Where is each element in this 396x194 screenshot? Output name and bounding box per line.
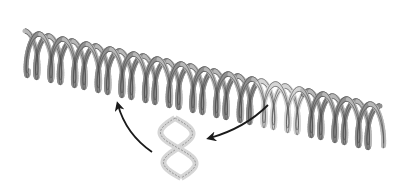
helix <box>25 29 384 150</box>
arrow-to-helix-icon <box>118 105 152 152</box>
dna-diagram <box>0 0 396 194</box>
detached-segment <box>160 118 195 178</box>
